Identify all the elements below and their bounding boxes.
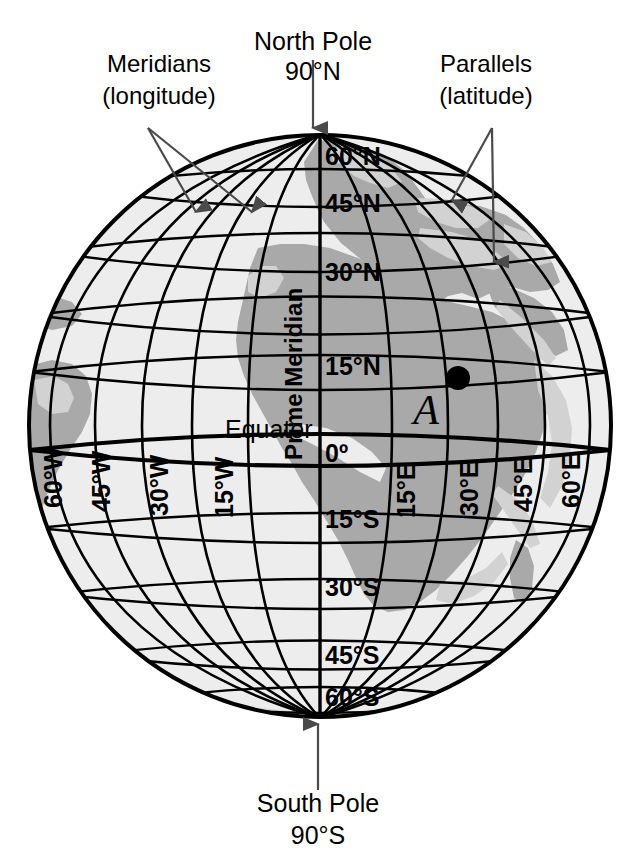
longitude-label-15E: 15°E xyxy=(392,464,420,518)
south-pole-name: South Pole xyxy=(257,789,379,817)
longitude-label-30E: 30°E xyxy=(455,462,483,516)
north-pole-value: 90°N xyxy=(285,57,341,85)
longitude-label-15W: 15°W xyxy=(210,456,238,518)
south-pole-value: 90°S xyxy=(291,821,345,849)
point-a-marker xyxy=(446,366,470,390)
latitude-label-60N: 60°N xyxy=(325,142,381,170)
latitude-label-60S: 60°S xyxy=(325,683,379,711)
point-a-label: A xyxy=(410,387,439,433)
equator-value-label: 0º xyxy=(325,439,348,467)
latitude-label-15S: 15°S xyxy=(325,505,379,533)
globe-diagram: A North Pole 90°N South Pole 90°S Meridi… xyxy=(0,0,638,865)
longitude-label-30W: 30°W xyxy=(145,454,173,516)
meridians-caption: Meridians (longitude) xyxy=(102,50,215,109)
parallels-caption-line1: Parallels xyxy=(440,50,532,77)
latitude-label-45N: 45°N xyxy=(325,189,381,217)
parallels-caption: Parallels (latitude) xyxy=(439,50,532,109)
latitude-label-15N: 15°N xyxy=(325,352,381,380)
parallels-caption-line2: (latitude) xyxy=(439,82,532,109)
globe-illustration: A North Pole 90°N South Pole 90°S Meridi… xyxy=(0,0,638,865)
meridians-caption-line1: Meridians xyxy=(107,50,211,77)
longitude-label-60E: 60°E xyxy=(557,454,585,508)
meridians-caption-line2: (longitude) xyxy=(102,82,215,109)
longitude-label-60W: 60°W xyxy=(39,446,67,508)
equator-label: Equator xyxy=(225,415,313,443)
globe-sphere xyxy=(16,128,620,740)
longitude-label-45W: 45°W xyxy=(87,450,115,512)
latitude-label-30S: 30°S xyxy=(325,573,379,601)
latitude-label-30N: 30°N xyxy=(325,258,381,286)
longitude-label-45E: 45°E xyxy=(509,458,537,512)
north-pole-caption: North Pole 90°N xyxy=(254,27,372,85)
latitude-label-45S: 45°S xyxy=(325,641,379,669)
south-pole-caption: South Pole 90°S xyxy=(257,789,379,849)
north-pole-name: North Pole xyxy=(254,27,372,55)
